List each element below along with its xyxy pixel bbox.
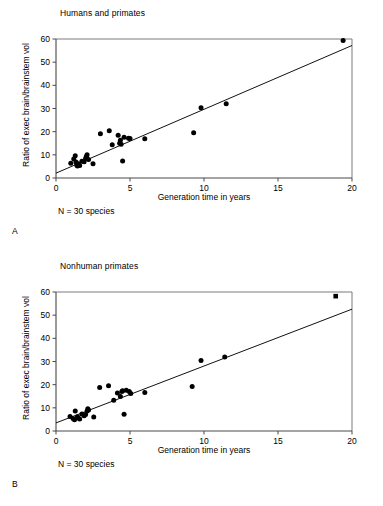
data-point <box>68 161 73 166</box>
y-tick-label: 0 <box>45 173 50 183</box>
data-point <box>191 130 196 135</box>
data-point-square <box>333 294 338 299</box>
data-point <box>224 101 229 106</box>
x-tick-label: 0 <box>54 436 59 446</box>
panel-a-scatter-plot: 010203040506005101520 <box>0 0 383 253</box>
y-tick-label: 10 <box>41 150 51 160</box>
data-point <box>97 385 102 390</box>
data-point <box>116 133 121 138</box>
panel-a: Humans and primates Ratio of exec brain/… <box>0 0 383 253</box>
data-point <box>199 358 204 363</box>
data-point <box>128 391 133 396</box>
y-tick-label: 60 <box>41 287 51 297</box>
data-point <box>111 398 116 403</box>
x-tick-label: 10 <box>199 183 209 193</box>
panel-b: Nonhuman primates Ratio of exec brain/br… <box>0 253 383 506</box>
x-tick-label: 5 <box>128 436 133 446</box>
y-tick-label: 50 <box>41 57 51 67</box>
data-point <box>91 161 96 166</box>
x-tick-label: 10 <box>199 436 209 446</box>
plot-axes <box>56 292 352 431</box>
data-point <box>110 142 115 147</box>
plot-frame <box>56 292 352 431</box>
data-point <box>119 142 124 147</box>
data-point <box>86 157 91 162</box>
x-tick-label: 15 <box>273 436 283 446</box>
regression-line <box>56 45 352 173</box>
data-point <box>77 416 82 421</box>
x-tick-label: 15 <box>273 183 283 193</box>
data-point <box>98 131 103 136</box>
data-point <box>190 384 195 389</box>
x-tick-label: 20 <box>347 183 357 193</box>
y-tick-label: 20 <box>41 380 51 390</box>
y-tick-label: 40 <box>41 333 51 343</box>
y-tick-label: 30 <box>41 357 51 367</box>
data-point <box>122 135 127 140</box>
data-point <box>86 407 91 412</box>
data-point <box>142 136 147 141</box>
data-point <box>222 355 227 360</box>
data-point <box>73 409 78 414</box>
plot-axes <box>56 39 352 178</box>
data-point <box>106 383 111 388</box>
data-point <box>120 159 125 164</box>
data-point <box>91 415 96 420</box>
y-tick-label: 60 <box>41 34 51 44</box>
y-tick-label: 10 <box>41 403 51 413</box>
x-tick-label: 0 <box>54 183 59 193</box>
panel-b-scatter-plot: 010203040506005101520 <box>0 253 383 506</box>
data-point <box>341 38 346 43</box>
data-point <box>128 136 133 141</box>
y-tick-label: 40 <box>41 80 51 90</box>
data-point <box>199 105 204 110</box>
y-tick-label: 20 <box>41 127 51 137</box>
data-point <box>118 394 123 399</box>
y-tick-label: 50 <box>41 310 51 320</box>
x-tick-label: 20 <box>347 436 357 446</box>
regression-line <box>56 309 352 423</box>
data-point <box>85 152 90 157</box>
data-point <box>73 153 78 158</box>
data-point <box>142 390 147 395</box>
x-tick-label: 5 <box>128 183 133 193</box>
data-point <box>107 128 112 133</box>
y-tick-label: 30 <box>41 104 51 114</box>
y-tick-label: 0 <box>45 426 50 436</box>
plot-frame <box>56 39 352 178</box>
data-point <box>122 412 127 417</box>
